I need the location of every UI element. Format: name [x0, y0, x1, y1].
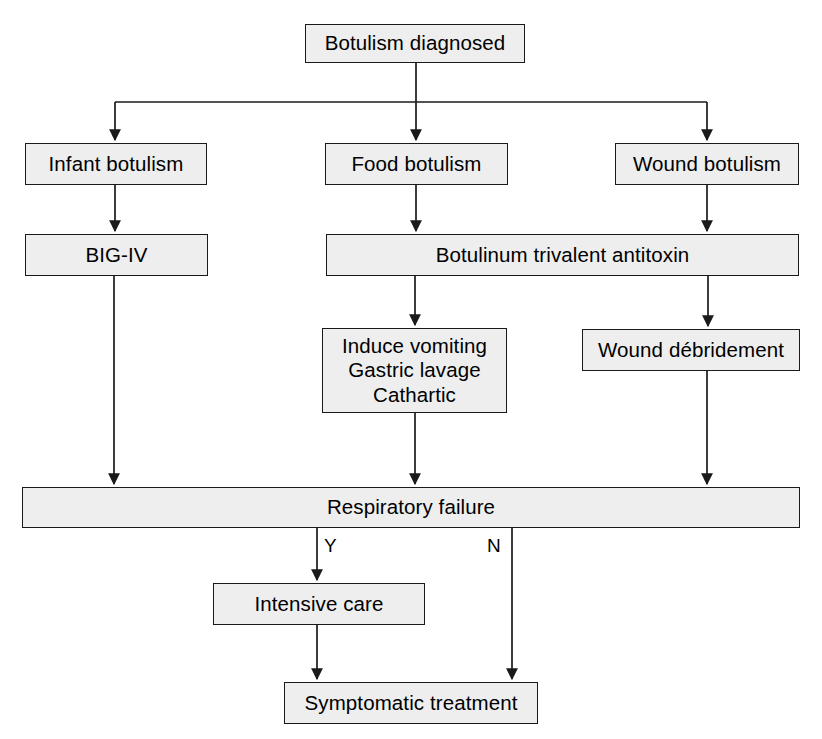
flowchart-canvas: Botulism diagnosed Infant botulism Food …: [0, 0, 822, 739]
node-big-iv[interactable]: BIG-IV: [25, 234, 208, 276]
node-food-botulism[interactable]: Food botulism: [325, 143, 508, 185]
node-respiratory-failure[interactable]: Respiratory failure: [22, 487, 800, 528]
node-intensive-care[interactable]: Intensive care: [213, 583, 425, 625]
node-wound-botulism[interactable]: Wound botulism: [615, 143, 799, 185]
node-wound-debridement[interactable]: Wound débridement: [582, 329, 800, 371]
node-symptomatic-treatment[interactable]: Symptomatic treatment: [284, 682, 538, 724]
edge-label-no: N: [487, 536, 501, 555]
edge-label-yes: Y: [324, 536, 337, 555]
node-gastric-measures[interactable]: Induce vomiting Gastric lavage Cathartic: [322, 328, 507, 413]
node-botulinum-trivalent-antitoxin[interactable]: Botulinum trivalent antitoxin: [326, 234, 799, 276]
node-infant-botulism[interactable]: Infant botulism: [25, 143, 207, 185]
node-botulism-diagnosed[interactable]: Botulism diagnosed: [305, 24, 525, 63]
